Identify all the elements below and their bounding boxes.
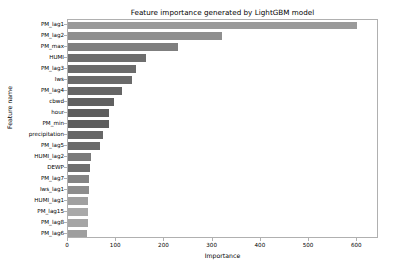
bar [68, 164, 90, 172]
bar [68, 219, 88, 227]
bar [68, 142, 100, 150]
bar [68, 120, 109, 128]
bar [68, 230, 87, 238]
bar [68, 87, 122, 95]
chart-title: Feature importance generated by LightGBM… [67, 8, 378, 17]
y-tick-label: PM_lag5 [0, 142, 64, 148]
bar [68, 32, 222, 40]
bar [68, 98, 114, 106]
bar [68, 197, 88, 205]
x-axis-label: Importance [67, 252, 378, 259]
x-tick-mark [163, 238, 164, 241]
bar [68, 22, 357, 30]
y-tick-label: PM_lag8 [0, 219, 64, 225]
bar [68, 54, 146, 62]
x-tick-label: 0 [65, 242, 69, 248]
y-tick-label: PM_lag2 [0, 32, 64, 38]
bar [68, 43, 178, 51]
plot-area [67, 19, 378, 238]
bar [68, 65, 136, 73]
chart-figure: Feature importance generated by LightGBM… [0, 0, 394, 273]
y-tick-label: PM_lag15 [0, 208, 64, 214]
bar [68, 76, 132, 84]
x-tick-mark [115, 238, 116, 241]
x-tick-label: 100 [110, 242, 121, 248]
x-tick-mark [308, 238, 309, 241]
x-tick-mark [67, 238, 68, 241]
y-tick-label: PM_max [0, 43, 64, 49]
bar [68, 153, 91, 161]
y-tick-label: HUMI_lag2 [0, 153, 64, 159]
x-tick-mark [356, 238, 357, 241]
x-tick-label: 400 [255, 242, 266, 248]
y-tick-label: PM_lag6 [0, 230, 64, 236]
x-tick-label: 500 [303, 242, 314, 248]
y-tick-label: DEWP [0, 164, 64, 170]
y-tick-label: HUMI_lag1 [0, 197, 64, 203]
y-tick-label: PM_lag7 [0, 175, 64, 181]
y-tick-label: PM_lag1 [0, 21, 64, 27]
bar [68, 131, 103, 139]
x-tick-label: 600 [351, 242, 362, 248]
y-tick-label: PM_lag3 [0, 65, 64, 71]
bar [68, 109, 109, 117]
y-tick-label: Iws_lag1 [0, 186, 64, 192]
y-axis-label: Feature name [6, 73, 13, 143]
x-tick-label: 300 [206, 242, 217, 248]
bar [68, 175, 89, 183]
bar [68, 208, 88, 216]
x-tick-label: 200 [158, 242, 169, 248]
y-tick-label: HUMI [0, 54, 64, 60]
x-tick-mark [212, 238, 213, 241]
x-tick-mark [260, 238, 261, 241]
bar [68, 186, 89, 194]
